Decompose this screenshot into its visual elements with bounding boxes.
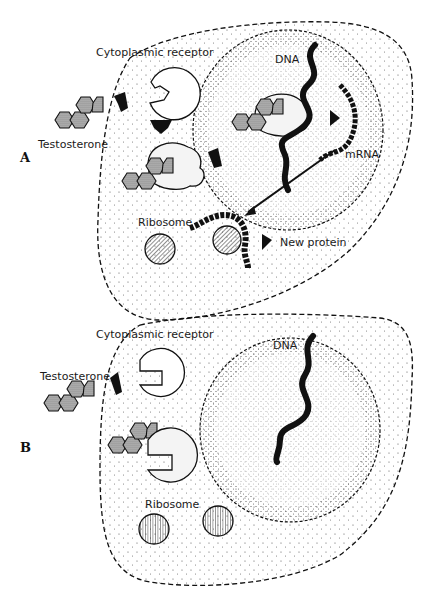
label-dna-a: DNA — [275, 53, 300, 66]
label-ribosome-b: Ribosome — [145, 498, 200, 511]
ribosome-free-a — [145, 234, 175, 264]
testosterone-molecule-b — [44, 381, 94, 411]
ribosome-b2 — [203, 506, 233, 536]
label-mrna-a: mRNA — [345, 148, 380, 161]
label-cytoplasmic-receptor-a: Cytoplasmic receptor — [96, 46, 214, 59]
diagram-canvas: Testosterone A Cytoplasmic receptor — [0, 0, 433, 594]
ribosome-translating-a — [213, 226, 241, 254]
label-dna-b: DNA — [273, 339, 298, 352]
panel-label-a: A — [19, 150, 31, 165]
label-ribosome-a: Ribosome — [138, 216, 193, 229]
label-cytoplasmic-receptor-b: Cytoplasmic receptor — [96, 328, 214, 341]
cytoplasmic-receptor-b2 — [148, 428, 197, 482]
label-testosterone-a: Testosterone — [37, 138, 108, 151]
testosterone-molecule — [55, 97, 103, 128]
ribosome-b1 — [139, 514, 169, 544]
panel-b: Cytoplasmic receptor Testosterone B Ribo… — [20, 314, 412, 585]
panel-a: Testosterone A Cytoplasmic receptor — [19, 22, 413, 320]
label-new-protein: New protein — [280, 236, 347, 249]
panel-label-b: B — [20, 440, 31, 455]
